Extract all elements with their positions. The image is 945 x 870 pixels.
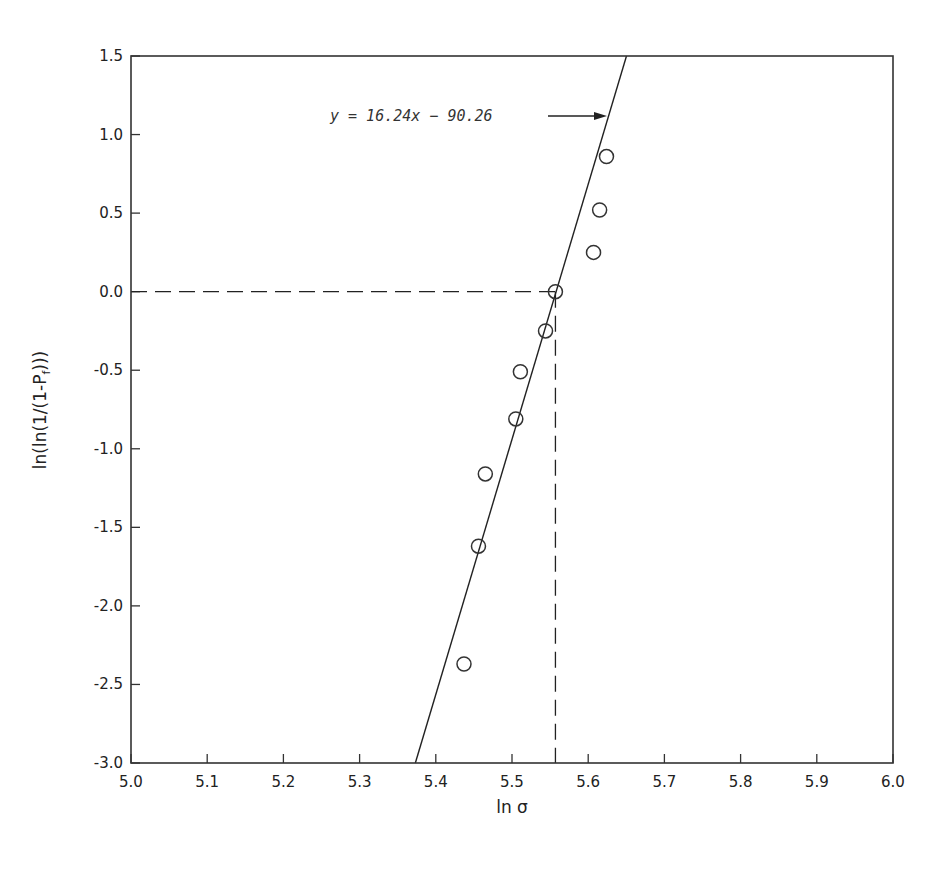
data-point-circle-icon (599, 150, 613, 164)
annotation-arrowhead-icon (594, 112, 607, 120)
data-point-circle-icon (587, 245, 601, 259)
y-tick-label: -1.0 (94, 440, 123, 458)
x-axis-title: ln σ (496, 797, 528, 817)
fit-equation-annotation: y = 16.24x − 90.26 (329, 107, 607, 125)
y-axis-ticks: 1.51.00.50.0-0.5-1.0-1.5-2.0-2.5-3.0 (94, 47, 140, 772)
y-tick-label: 1.5 (99, 47, 123, 65)
x-tick-label: 5.4 (424, 773, 448, 791)
y-tick-label: -2.5 (94, 675, 123, 693)
x-tick-label: 5.5 (500, 773, 524, 791)
x-tick-label: 5.8 (729, 773, 753, 791)
y-tick-label: -0.5 (94, 361, 123, 379)
data-point-circle-icon (509, 412, 523, 426)
x-tick-label: 5.1 (195, 773, 219, 791)
x-tick-label: 6.0 (881, 773, 905, 791)
fit-line (415, 56, 626, 763)
plot-frame (131, 56, 893, 763)
x-tick-label: 5.6 (576, 773, 600, 791)
reference-lines (131, 292, 555, 763)
y-tick-label: 0.0 (99, 283, 123, 301)
data-point-circle-icon (457, 657, 471, 671)
x-tick-label: 5.3 (348, 773, 372, 791)
x-axis-ticks: 5.05.15.25.35.45.55.65.75.85.96.0 (119, 754, 905, 791)
data-point-circle-icon (593, 203, 607, 217)
data-point-circle-icon (478, 467, 492, 481)
y-axis-title: ln(ln(1/(1-Pf))) (30, 351, 53, 469)
y-tick-label: -1.5 (94, 518, 123, 536)
data-points (457, 150, 613, 671)
y-tick-label: 0.5 (99, 204, 123, 222)
x-tick-label: 5.7 (652, 773, 676, 791)
fit-equation: y = 16.24x − 90.26 (329, 107, 493, 125)
data-point-circle-icon (513, 365, 527, 379)
weibull-plot: 1.51.00.50.0-0.5-1.0-1.5-2.0-2.5-3.0 5.0… (0, 0, 945, 870)
y-tick-label: 1.0 (99, 126, 123, 144)
x-tick-label: 5.2 (271, 773, 295, 791)
x-tick-label: 5.9 (805, 773, 829, 791)
y-tick-label: -3.0 (94, 754, 123, 772)
x-tick-label: 5.0 (119, 773, 143, 791)
y-tick-label: -2.0 (94, 597, 123, 615)
